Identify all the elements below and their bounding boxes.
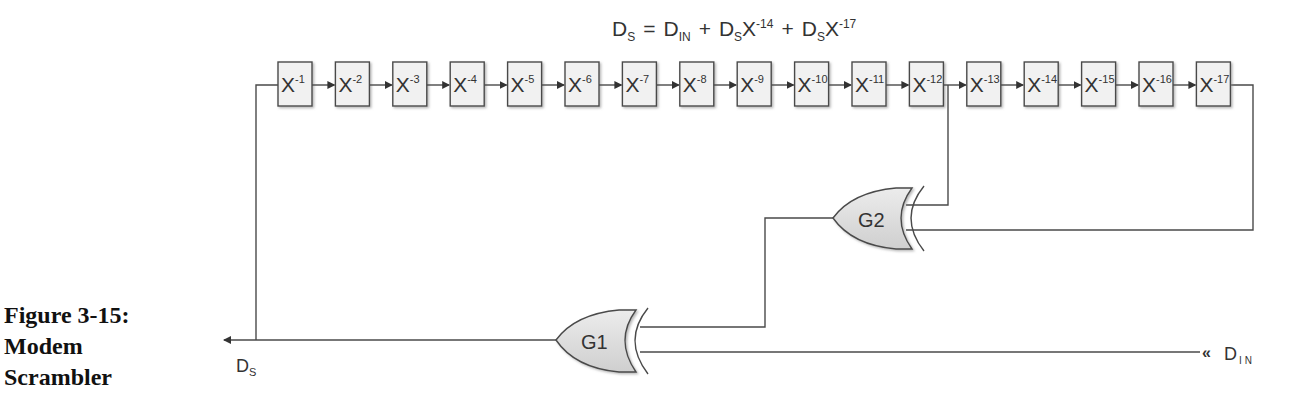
delay-box: X-6 xyxy=(565,62,599,106)
delay-box: X-3 xyxy=(393,62,427,106)
scrambler-diagram: DS=DIN+DSX-14+DSX-17 X-1X-2X-3X-4X-5X-6X… xyxy=(0,0,1291,402)
feedback-wire-left xyxy=(256,85,278,340)
delay-box: X-2 xyxy=(335,62,369,106)
delay-box: X-13 xyxy=(967,62,1001,106)
delay-box: X-4 xyxy=(450,62,484,106)
delay-box: X-1 xyxy=(278,62,312,106)
equation: DS=DIN+DSX-14+DSX-17 xyxy=(612,17,857,44)
delay-box: X-11 xyxy=(852,62,886,106)
wires xyxy=(224,85,1253,352)
delay-box: X-7 xyxy=(622,62,656,106)
delay-box: X-12 xyxy=(909,62,943,106)
input-marker-icon: « xyxy=(1202,344,1211,361)
delay-box: X-16 xyxy=(1139,62,1173,106)
delay-box: X-17 xyxy=(1196,62,1230,106)
xor-gate-g1: G1 xyxy=(556,308,648,374)
xor-gate-g2: G2 xyxy=(833,186,924,251)
output-label: DS xyxy=(236,356,256,378)
delay-box: X-5 xyxy=(508,62,542,106)
delay-box: X-15 xyxy=(1082,62,1116,106)
delay-box: X-10 xyxy=(795,62,829,106)
g2-output-wire xyxy=(640,218,833,327)
delay-box: X-9 xyxy=(737,62,771,106)
delay-box: X-14 xyxy=(1024,62,1058,106)
delay-box: X-8 xyxy=(680,62,714,106)
shift-register: X-1X-2X-3X-4X-5X-6X-7X-8X-9X-10X-11X-12X… xyxy=(278,62,1230,106)
tap-wire-x17 xyxy=(906,85,1253,230)
gate-label-g1: G1 xyxy=(581,331,608,353)
input-label: DIN xyxy=(1224,344,1255,366)
gate-label-g2: G2 xyxy=(858,209,885,231)
